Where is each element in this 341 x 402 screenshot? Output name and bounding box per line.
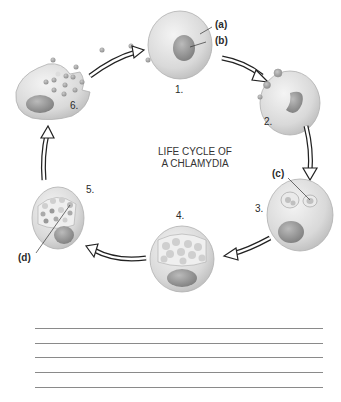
cell-stage-3	[267, 178, 333, 251]
answer-line-1[interactable]	[35, 328, 323, 329]
answer-line-2[interactable]	[35, 343, 323, 344]
label-b: (b)	[215, 35, 228, 46]
answer-line-4[interactable]	[35, 372, 323, 373]
stage-number-3: 3.	[255, 203, 263, 214]
chlamydia-life-cycle-diagram	[0, 0, 341, 402]
cell-stage-4	[150, 226, 214, 292]
title-line-1: LIFE CYCLE OF	[140, 146, 250, 158]
label-a: (a)	[215, 19, 227, 30]
label-d: (d)	[18, 252, 31, 263]
arrow-1-to-2	[222, 58, 268, 82]
stage-number-6: 6.	[70, 100, 78, 111]
cell-stage-5	[32, 187, 84, 253]
stage-number-4: 4.	[176, 210, 184, 221]
arrow-3-to-4	[224, 238, 270, 260]
arrow-4-to-5	[86, 244, 146, 259]
label-c: (c)	[272, 168, 284, 179]
cell-stage-1	[146, 11, 213, 79]
arrow-6-to-1	[90, 46, 144, 76]
arrow-5-to-6	[41, 126, 54, 180]
stage-number-5: 5.	[86, 184, 94, 195]
title-line-2: A CHLAMYDIA	[140, 158, 250, 170]
stage-number-1: 1.	[175, 84, 183, 95]
answer-line-5[interactable]	[35, 387, 323, 388]
diagram-title: LIFE CYCLE OF A CHLAMYDIA	[140, 146, 250, 170]
answer-line-3[interactable]	[35, 357, 323, 358]
stage-number-2: 2.	[264, 116, 272, 127]
arrow-2-to-3	[303, 126, 317, 180]
